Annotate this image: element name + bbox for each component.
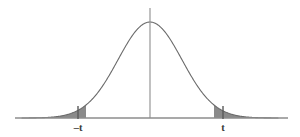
axis-label-negative-t: –t — [73, 122, 83, 133]
distribution-figure: –t t — [0, 0, 300, 137]
axis-label-positive-t: t — [221, 122, 225, 133]
distribution-chart-svg: –t t — [0, 0, 300, 137]
